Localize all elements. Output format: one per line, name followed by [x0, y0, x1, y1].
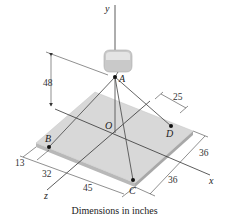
label-O: O [105, 120, 112, 131]
caption: Dimensions in inches [0, 205, 229, 216]
label-B: B [45, 133, 51, 144]
block [104, 50, 132, 77]
dim-13: 13 [15, 158, 25, 168]
label-A: A [118, 73, 126, 84]
label-D: D [165, 128, 174, 139]
plate [36, 92, 193, 187]
dimension-25 [155, 92, 188, 113]
statics-diagram: y x z A B C D O 48 25 36 36 13 32 45 [0, 0, 229, 219]
dim-25: 25 [173, 92, 183, 102]
dim-36-lower: 36 [168, 175, 178, 185]
point-C [131, 178, 135, 182]
dim-45: 45 [83, 183, 93, 193]
dim-48: 48 [43, 78, 53, 88]
label-C: C [129, 185, 136, 196]
dim-32: 32 [42, 169, 52, 179]
label-z-axis: z [43, 190, 48, 201]
label-x-axis: x [208, 175, 214, 186]
label-y-axis: y [104, 3, 110, 14]
point-A [113, 75, 117, 79]
point-B [47, 145, 51, 149]
dim-36-upper: 36 [199, 148, 209, 158]
